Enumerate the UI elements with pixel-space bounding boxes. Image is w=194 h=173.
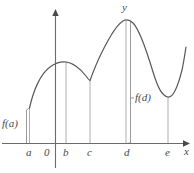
fd-value-label: f(d) [135, 92, 151, 103]
y-axis-arrowhead [52, 9, 58, 16]
fa-value-label: f(a) [2, 118, 18, 129]
origin-label: 0 [44, 147, 50, 158]
tick-label-a: a [26, 147, 32, 158]
tick-label-c: c [87, 147, 92, 158]
ordinate-lines [30, 21, 169, 144]
tick-label-e: e [165, 147, 170, 158]
fd-measure-bracket [127, 22, 135, 144]
y-axis-label: y [122, 2, 127, 13]
tick-label-d: d [124, 147, 130, 158]
tick-label-b: b [63, 147, 69, 158]
function-graph-figure: y x 0 a b c d e f(a) f(d) [0, 0, 194, 173]
x-axis-label: x [184, 146, 189, 157]
y-axis [52, 9, 58, 168]
function-curve [30, 20, 187, 108]
